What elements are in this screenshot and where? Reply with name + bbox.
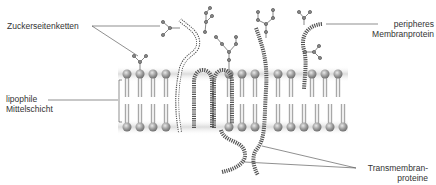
phospholipid [123, 70, 132, 98]
sugar-chain [203, 6, 213, 33]
phospholipid [339, 104, 348, 132]
sugar-chains [132, 6, 321, 70]
label-peripheral-protein: peripheres Membranprotein [372, 19, 434, 39]
lipophilic-bracket [119, 80, 122, 122]
label-lipophilic-layer: lipophile Mittelschicht [6, 94, 53, 114]
phospholipid [321, 70, 330, 98]
leader-transmembrane-2 [244, 162, 356, 168]
label-peripheral-line2: Membranprotein [372, 29, 434, 39]
phospholipid [162, 70, 171, 98]
sugar-chain [161, 20, 180, 36]
transmembrane-protein-2 [221, 130, 245, 172]
phospholipid [326, 104, 335, 132]
label-lipophilic-line1: lipophile [6, 94, 53, 104]
sugar-chain [214, 35, 237, 70]
label-sugar-chains: Zuckerseitenketten [7, 21, 79, 31]
phospholipid [274, 104, 283, 132]
phospholipid [308, 70, 317, 98]
phospholipid [238, 70, 247, 98]
phospholipid [136, 70, 145, 98]
phospholipid [162, 104, 171, 132]
phospholipid [313, 104, 322, 132]
leader-transmembrane-1 [262, 146, 356, 168]
label-transmembrane-proteins: Transmembran- proteine [368, 163, 428, 183]
phospholipid [149, 70, 158, 98]
lipid-bilayer-top [123, 70, 343, 98]
label-transmembrane-line1: Transmembran- [368, 163, 428, 173]
label-peripheral-line1: peripheres [372, 19, 434, 29]
phospholipid [300, 104, 309, 132]
phospholipid [123, 104, 132, 132]
phospholipid [334, 70, 343, 98]
phospholipid [287, 104, 296, 132]
phospholipid [136, 104, 145, 132]
phospholipid [238, 104, 247, 132]
leader-sugar-1 [92, 26, 138, 56]
label-transmembrane-line2: proteine [368, 173, 428, 183]
phospholipid [274, 70, 283, 98]
phospholipid [287, 70, 296, 98]
phospholipid [149, 104, 158, 132]
label-lipophilic-line2: Mittelschicht [6, 104, 53, 114]
transmembrane-protein-3 [253, 28, 266, 175]
phospholipid [251, 70, 260, 98]
phospholipid [225, 70, 234, 98]
sugar-chain [256, 8, 274, 38]
sugar-chain [297, 10, 311, 25]
phospholipid [251, 104, 260, 132]
